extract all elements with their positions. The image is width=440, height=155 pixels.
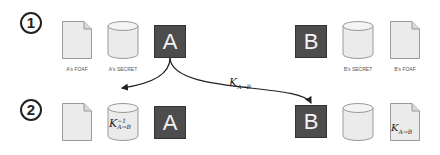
b-secret-cylinder-icon [342,21,374,59]
key-base: K [109,117,117,130]
b-foaf-caption: B's FOAF [385,66,425,72]
a-foaf-document-icon [62,21,92,59]
key-subscript: A→B [398,128,412,135]
party-a-box: A [154,25,186,58]
b-secret-cylinder-icon-step2 [342,103,374,141]
key-subscript: A→B [237,83,251,90]
a-secret-caption: A's SECRET [103,66,143,72]
step-1-marker: 1 [20,12,42,34]
party-a-box-step2: A [154,106,186,139]
shared-key-label: KA→B [229,76,251,90]
a-secret-cylinder-icon [107,21,139,59]
b-secret-caption: B's SECRET [338,66,378,72]
b-foaf-key-label: KA→B [391,122,412,135]
party-b-box-step2: B [295,105,327,138]
key-base: K [229,76,237,89]
arrow-to-a-secret [122,58,170,88]
private-key-label: K−1A→B [109,117,131,130]
party-b-box: B [295,25,327,58]
b-foaf-document-icon [390,21,420,59]
a-foaf-document-icon-step2 [62,103,92,141]
key-subscript: A→B [117,124,131,130]
a-foaf-caption: A's FOAF [57,66,97,72]
diagram: 1 2 A's FOAF A's SECRET A B B's SECRET B… [0,0,440,155]
step-2-marker: 2 [20,99,42,121]
